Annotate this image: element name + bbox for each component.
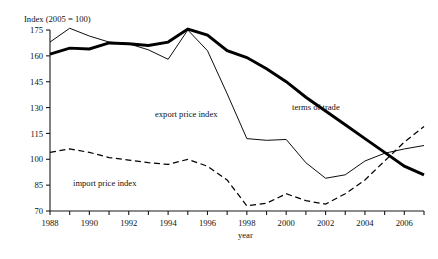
series-line-export-price-index [50, 28, 424, 178]
y-axis-title: Index (2005 = 100) [24, 14, 91, 24]
y-axis-tick-label: 70 [34, 206, 43, 216]
chart-container: Index (2005 = 100) 708510011513014516017… [0, 0, 438, 259]
terms-of-trade-line-chart: Index (2005 = 100) 708510011513014516017… [0, 0, 438, 259]
series-label-export-price-index: export price index [155, 109, 218, 119]
x-axis-title-group: year [238, 230, 253, 240]
y-axis-ticks: 7085100115130145160175 [30, 25, 50, 216]
series-label-import-price-index: import price index [73, 178, 137, 188]
x-axis-tick-label: 2004 [356, 218, 374, 228]
y-axis-tick-label: 175 [30, 25, 43, 35]
y-axis-tick-label: 85 [34, 180, 43, 190]
series-annotations-group: export price indexterms of tradeimport p… [73, 102, 340, 188]
y-axis-tick-label: 100 [30, 154, 43, 164]
x-axis-tick-label: 1998 [238, 218, 255, 228]
x-axis-tick-label: 1992 [120, 218, 137, 228]
series-line-import-price-index [50, 127, 424, 206]
y-axis-tick-label: 115 [30, 129, 43, 139]
x-axis-tick-label: 1990 [81, 218, 98, 228]
x-axis-tick-label: 1994 [160, 218, 178, 228]
x-axis-tick-label: 1996 [199, 218, 217, 228]
x-axis-tick-label: 2002 [317, 218, 334, 228]
series-line-terms-of-trade [50, 29, 424, 175]
y-axis-tick-label: 145 [30, 77, 43, 87]
series-label-terms-of-trade: terms of trade [292, 102, 340, 112]
y-axis-title-group: Index (2005 = 100) [24, 14, 91, 24]
y-axis-tick-label: 160 [30, 51, 43, 61]
x-axis-title: year [238, 230, 253, 240]
x-axis-ticks: 1988199019921994199619982000200220042006 [41, 211, 424, 228]
x-axis-tick-label: 2000 [278, 218, 295, 228]
x-axis-tick-label: 1988 [41, 218, 58, 228]
x-axis-tick-label: 2006 [396, 218, 414, 228]
y-axis-tick-label: 130 [30, 103, 43, 113]
